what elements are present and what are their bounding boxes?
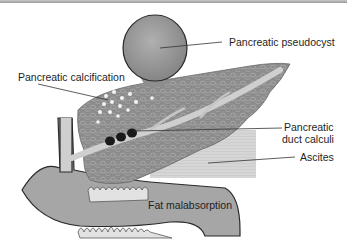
bile-duct	[60, 118, 72, 172]
label-duct-calculi-line2: duct calculi	[282, 133, 334, 145]
label-ascites: Ascites	[300, 151, 334, 163]
label-pancreatic-calcification: Pancreatic calcification	[18, 71, 125, 83]
label-pancreatic-pseudocyst: Pancreatic pseudocyst	[229, 36, 335, 48]
leader-calcification	[38, 84, 108, 100]
pseudocyst	[123, 15, 187, 81]
villi-lower	[78, 227, 172, 238]
villi-upper	[88, 187, 148, 202]
label-fat-malabsorption: Fat malabsorption	[148, 199, 232, 211]
label-duct-calculi-line1: Pancreatic	[284, 121, 334, 133]
